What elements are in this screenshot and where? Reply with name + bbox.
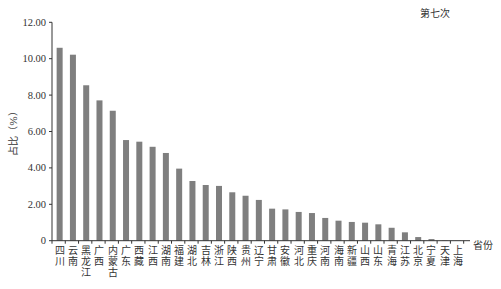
- y-tick-label: 10.00: [22, 53, 46, 64]
- x-tick-label: 甘肃: [267, 244, 277, 267]
- chart-title: 第七次: [420, 7, 450, 19]
- bar: [163, 153, 169, 241]
- x-axis: 四川云南黑龙江广西内蒙古广东西藏江西湖南福建湖北吉林浙江陕西贵州辽宁甘肃安徽河北…: [52, 241, 470, 278]
- y-tick-label: 0: [41, 235, 46, 246]
- x-tick-label: 湖南: [161, 245, 171, 267]
- x-tick-label: 上海: [453, 245, 463, 267]
- x-tick-label: 海南: [334, 244, 344, 267]
- bar: [296, 212, 302, 241]
- x-tick-label: 山西: [360, 245, 370, 267]
- bar: [336, 221, 342, 241]
- bar: [57, 48, 63, 241]
- bar: [269, 209, 275, 241]
- y-axis: 02.004.006.008.0010.0012.00: [22, 17, 52, 246]
- bar: [189, 181, 195, 241]
- x-tick-label: 陕西: [227, 244, 237, 267]
- x-tick-label: 黑龙江: [81, 245, 91, 278]
- bar: [136, 142, 142, 241]
- x-tick-label: 云南: [68, 245, 78, 267]
- bar: [110, 111, 116, 241]
- x-tick-label: 山东: [373, 245, 383, 267]
- x-tick-label: 重庆: [307, 244, 317, 267]
- x-tick-label: 江西: [148, 245, 158, 267]
- x-tick-label: 辽宁: [254, 245, 264, 267]
- x-tick-label: 天津: [440, 245, 450, 267]
- bar: [282, 209, 288, 240]
- x-tick-label: 西藏: [134, 245, 144, 267]
- x-tick-label: 湖北: [187, 245, 197, 267]
- bar-chart: 第七次 占比（%） 02.004.006.008.0010.0012.00 四川…: [0, 0, 501, 289]
- bar: [349, 222, 355, 241]
- bar: [203, 185, 209, 241]
- x-tick-label: 吉林: [201, 245, 211, 267]
- x-tick-label: 内蒙古: [108, 244, 118, 278]
- x-tick-label: 河南: [320, 245, 330, 267]
- bar: [176, 169, 182, 241]
- bar: [123, 140, 129, 241]
- y-tick-label: 4.00: [28, 162, 46, 173]
- x-tick-label: 浙江: [214, 245, 224, 267]
- x-tick-label: 宁夏: [426, 244, 436, 267]
- bar: [362, 223, 368, 241]
- bars: [57, 48, 461, 241]
- x-tick-label: 安徽: [280, 244, 290, 267]
- bar: [96, 100, 102, 240]
- bar: [322, 218, 328, 241]
- y-tick-label: 12.00: [22, 17, 46, 28]
- bar: [150, 147, 156, 241]
- bar: [402, 232, 408, 240]
- y-tick-label: 2.00: [28, 199, 46, 210]
- x-tick-label: 福建: [174, 244, 184, 267]
- x-axis-title: 省份: [473, 239, 493, 251]
- bar: [216, 186, 222, 241]
- bar: [83, 85, 89, 240]
- x-tick-label: 青海: [387, 244, 397, 267]
- x-tick-label: 四川: [55, 245, 65, 267]
- y-axis-title: 占比（%）: [7, 106, 19, 156]
- bar: [70, 55, 76, 241]
- x-tick-label: 江苏: [400, 245, 410, 267]
- x-tick-label: 广东: [121, 245, 131, 267]
- bar: [229, 192, 235, 240]
- x-tick-label: 北京: [413, 245, 423, 267]
- x-tick-label: 贵州: [241, 244, 251, 267]
- bar: [256, 200, 262, 241]
- bar: [389, 228, 395, 241]
- x-tick-label: 新疆: [347, 244, 357, 267]
- x-tick-label: 广西: [94, 245, 104, 267]
- x-tick-label: 河北: [294, 245, 304, 267]
- bar: [375, 224, 381, 240]
- y-tick-label: 8.00: [28, 90, 46, 101]
- bar: [415, 237, 421, 241]
- bar: [243, 196, 249, 241]
- bar: [309, 213, 315, 241]
- y-tick-label: 6.00: [28, 126, 46, 137]
